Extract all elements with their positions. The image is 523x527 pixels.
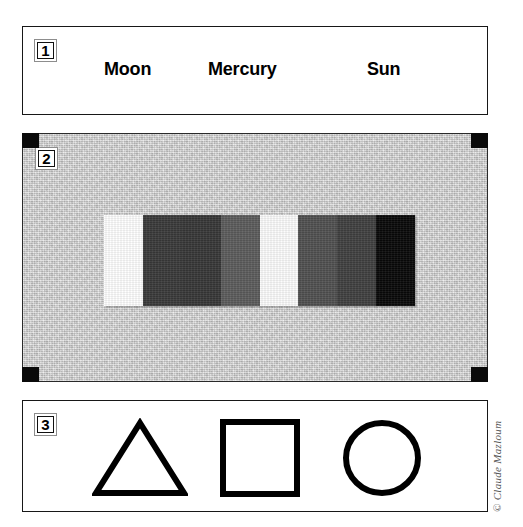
triangle-shape-icon: [92, 418, 188, 498]
panel-grayscale-wedge: 2: [22, 133, 488, 382]
corner-marker-bottom-right-icon: [471, 367, 488, 382]
word-moon: Moon: [104, 59, 151, 80]
panel-badge-2: 2: [35, 147, 58, 170]
wedge-bar: [260, 215, 299, 306]
wedge-bar: [104, 215, 143, 306]
square-shape-icon: [219, 418, 301, 498]
word-sun: Sun: [367, 59, 400, 80]
panel-word-list: 1 Moon Mercury Sun: [22, 26, 488, 115]
wedge-bar: [182, 215, 221, 306]
panel-badge-2-label: 2: [38, 150, 55, 167]
wedge-bar: [143, 215, 182, 306]
corner-marker-top-right-icon: [471, 133, 488, 148]
word-mercury: Mercury: [208, 59, 277, 80]
panel-shape-row: 3: [22, 400, 488, 512]
panel-badge-3: 3: [34, 413, 57, 436]
copyright-credit: © Claude Mazloum: [489, 400, 505, 512]
wedge-bar: [298, 215, 337, 306]
word-row: Moon Mercury Sun: [23, 27, 487, 114]
figure-root: 1 Moon Mercury Sun 2 3: [0, 0, 523, 527]
grayscale-step-wedge: [104, 215, 415, 306]
panel-badge-3-label: 3: [37, 416, 54, 433]
corner-marker-top-left-icon: [22, 133, 39, 148]
wedge-bar: [376, 215, 415, 306]
wedge-bar: [221, 215, 260, 306]
wedge-bar: [337, 215, 376, 306]
corner-marker-bottom-left-icon: [22, 367, 39, 382]
circle-shape-icon: [341, 418, 423, 498]
